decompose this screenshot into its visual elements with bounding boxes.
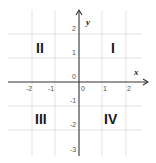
quadrant-label-i: I [111,40,115,56]
y-tick-label: -2 [70,121,76,128]
y-axis-label: y [85,17,91,27]
x-tick-label: 0 [81,85,85,92]
x-tick-label: -1 [48,85,54,92]
x-tick-label: 2 [127,85,131,92]
coordinate-plane: x y -2 -1 0 1 2 2 1 0 -1 -2 -3 II I III … [0,0,156,163]
y-tick-label: 1 [72,49,76,56]
y-tick-label: -3 [70,146,76,153]
x-tick-label: 1 [103,85,107,92]
y-tick-label: 0 [72,73,76,80]
quadrant-label-iv: IV [104,111,118,127]
x-axis-label: x [133,67,139,77]
y-tick-labels: 2 1 0 -1 -2 -3 [70,25,76,153]
x-tick-label: -2 [26,85,32,92]
y-tick-label: 2 [72,25,76,32]
quadrant-label-iii: III [35,111,47,127]
quadrant-labels: II I III IV [35,40,118,127]
y-tick-label: -1 [70,97,76,104]
axes [8,10,148,156]
quadrant-label-ii: II [36,40,44,56]
